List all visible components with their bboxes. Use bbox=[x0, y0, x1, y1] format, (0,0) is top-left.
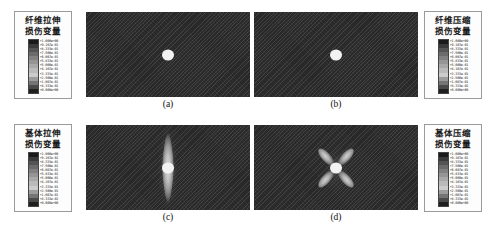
legend-matrix-compression-body: +1.000e+00+9.167e-01+8.333e-01+7.500e-01… bbox=[427, 152, 479, 208]
caption-panel-a: (a) bbox=[86, 99, 250, 109]
contour-panel-a bbox=[86, 12, 250, 97]
colorbar-fiber-tension bbox=[28, 39, 39, 95]
legend-matrix-tension-title-line2: 损伤变量 bbox=[17, 139, 69, 150]
composite-damage-figure: 纤维拉伸 损伤变量 +1.000e+00+9.167e-01+8.333e-01… bbox=[0, 0, 497, 231]
center-hole-a bbox=[162, 49, 174, 60]
legend-matrix-tension-body: +1.000e+00+9.167e-01+8.333e-01+7.500e-01… bbox=[17, 152, 69, 208]
legend-fiber-tension-title-line1: 纤维拉伸 bbox=[17, 15, 69, 26]
legend-matrix-tension-title-line1: 基体拉伸 bbox=[17, 128, 69, 139]
ticklabels-matrix-tension: +1.000e+00+9.167e-01+8.333e-01+7.500e-01… bbox=[40, 152, 58, 206]
legend-fiber-compression-body: +1.000e+00+9.167e-01+8.333e-01+7.500e-01… bbox=[427, 39, 479, 95]
colorbar-swatch-12 bbox=[29, 202, 38, 206]
center-hole-c bbox=[162, 162, 174, 173]
contour-panel-b bbox=[254, 12, 418, 97]
contour-panel-c bbox=[86, 125, 250, 210]
legend-tick-12: +0.000e+00 bbox=[40, 88, 58, 92]
legend-tick-12: +0.000e+00 bbox=[450, 201, 468, 205]
colorbar-fiber-compression bbox=[438, 39, 449, 95]
legend-tick-12: +0.000e+00 bbox=[450, 88, 468, 92]
ticklabels-matrix-compression: +1.000e+00+9.167e-01+8.333e-01+7.500e-01… bbox=[450, 152, 468, 206]
caption-panel-c: (c) bbox=[86, 212, 250, 222]
caption-panel-b: (b) bbox=[254, 99, 418, 109]
legend-fiber-compression-title-line1: 纤维压缩 bbox=[427, 15, 479, 26]
center-hole-d bbox=[330, 162, 342, 173]
caption-panel-d: (d) bbox=[254, 212, 418, 222]
colorbar-swatch-12 bbox=[439, 202, 448, 206]
colorbar-swatch-12 bbox=[439, 89, 448, 93]
legend-fiber-compression: 纤维压缩 损伤变量 +1.000e+00+9.167e-01+8.333e-01… bbox=[424, 11, 482, 99]
legend-fiber-compression-title-line2: 损伤变量 bbox=[427, 26, 479, 37]
ticklabels-fiber-tension: +1.000e+00+9.167e-01+8.333e-01+7.500e-01… bbox=[40, 39, 58, 93]
legend-matrix-compression-title-line1: 基体压缩 bbox=[427, 128, 479, 139]
legend-fiber-tension-title-line2: 损伤变量 bbox=[17, 26, 69, 37]
colorbar-swatch-12 bbox=[29, 89, 38, 93]
contour-panel-d bbox=[254, 125, 418, 210]
colorbar-matrix-compression bbox=[438, 152, 449, 208]
ticklabels-fiber-compression: +1.000e+00+9.167e-01+8.333e-01+7.500e-01… bbox=[450, 39, 468, 93]
legend-matrix-compression-title-line2: 损伤变量 bbox=[427, 139, 479, 150]
legend-fiber-tension-body: +1.000e+00+9.167e-01+8.333e-01+7.500e-01… bbox=[17, 39, 69, 95]
legend-fiber-tension: 纤维拉伸 损伤变量 +1.000e+00+9.167e-01+8.333e-01… bbox=[14, 11, 72, 99]
colorbar-matrix-tension bbox=[28, 152, 39, 208]
center-hole-b bbox=[330, 49, 342, 60]
legend-matrix-compression: 基体压缩 损伤变量 +1.000e+00+9.167e-01+8.333e-01… bbox=[424, 124, 482, 212]
legend-matrix-tension: 基体拉伸 损伤变量 +1.000e+00+9.167e-01+8.333e-01… bbox=[14, 124, 72, 212]
legend-tick-12: +0.000e+00 bbox=[40, 201, 58, 205]
